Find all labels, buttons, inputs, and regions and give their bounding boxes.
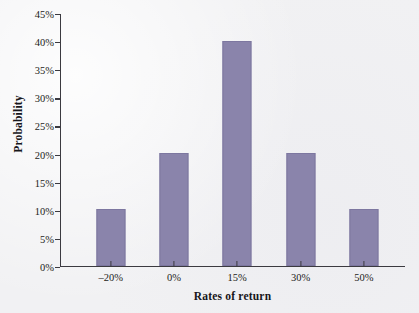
bar (223, 41, 252, 266)
x-axis-tick-mark (173, 261, 174, 267)
x-axis-title: Rates of return (60, 290, 405, 302)
y-axis-tick-label: 10% (20, 205, 54, 216)
y-axis-tick-label: 15% (20, 177, 54, 188)
y-axis-tick-label: 25% (20, 121, 54, 132)
bar (286, 153, 315, 265)
x-axis-tick-label: 30% (291, 272, 310, 283)
x-axis-tick-mark (300, 261, 301, 267)
y-axis-tick-mark (55, 267, 60, 268)
bar (96, 209, 125, 265)
bar (159, 153, 188, 265)
y-axis-tick-label: 45% (20, 9, 54, 20)
y-axis-tick-label: 40% (20, 37, 54, 48)
x-axis-tick-label: 50% (354, 272, 373, 283)
x-axis-line (60, 266, 405, 267)
y-axis-tick-mark (55, 155, 60, 156)
y-axis-tick-label: 35% (20, 65, 54, 76)
x-axis-tick-mark (110, 261, 111, 267)
y-axis-tick-mark (55, 70, 60, 71)
y-axis-tick-mark (55, 14, 60, 15)
y-axis-line (60, 14, 61, 267)
y-axis-tick-mark (55, 211, 60, 212)
x-axis-tick-mark (363, 261, 364, 267)
y-axis-tick-mark (55, 98, 60, 99)
bar (349, 209, 378, 265)
y-axis-tick-mark (55, 239, 60, 240)
y-axis-tick-mark (55, 126, 60, 127)
y-axis-tick-label: 5% (20, 233, 54, 244)
x-axis-tick-label: –20% (98, 272, 123, 283)
x-axis-tick-label: 15% (228, 272, 247, 283)
y-axis-tick-mark (55, 42, 60, 43)
plot-area (60, 14, 405, 267)
x-axis-tick-mark (237, 261, 238, 267)
x-axis-tick-label: 0% (167, 272, 181, 283)
y-axis-tick-label: 30% (20, 93, 54, 104)
y-axis-tick-label: 20% (20, 149, 54, 160)
y-axis-tick-mark (55, 183, 60, 184)
bar-chart: Probability 0%5%10%15%20%25%30%35%40%45%… (0, 0, 419, 313)
y-axis-tick-labels: 0%5%10%15%20%25%30%35%40%45% (14, 0, 54, 313)
y-axis-tick-label: 0% (20, 262, 54, 273)
